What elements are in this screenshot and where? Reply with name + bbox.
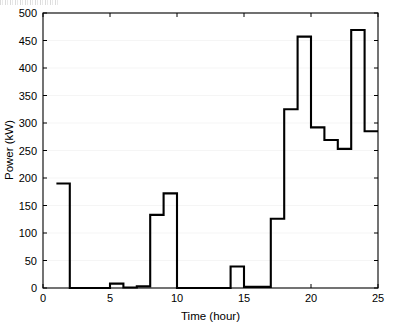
- y-tick-label: 250: [19, 145, 37, 157]
- y-tick-label: 100: [19, 227, 37, 239]
- y-tick-label: 150: [19, 200, 37, 212]
- y-tick-label: 0: [31, 282, 37, 294]
- x-axis-label: Time (hour): [181, 310, 240, 322]
- x-tick-label: 15: [238, 292, 250, 304]
- x-tick-label: 0: [40, 292, 46, 304]
- data-series-group: [56, 30, 378, 288]
- y-axis-label: Power (kW): [3, 120, 15, 180]
- y-tick-label: 300: [19, 117, 37, 129]
- x-tick-label: 20: [305, 292, 317, 304]
- x-tick-label: 25: [372, 292, 384, 304]
- x-tick-label: 10: [171, 292, 183, 304]
- x-tick-label: 5: [107, 292, 113, 304]
- series-power-line: [56, 30, 378, 288]
- y-tick-label: 500: [19, 7, 37, 19]
- y-tick-label: 450: [19, 35, 37, 47]
- power-time-step-chart: 050100150200250300350400450500 051015202…: [0, 0, 393, 327]
- figure-canvas: 050100150200250300350400450500 051015202…: [0, 0, 393, 327]
- y-tick-label: 200: [19, 172, 37, 184]
- y-tick-label: 350: [19, 90, 37, 102]
- grid-lines: [43, 13, 378, 261]
- y-tick-label: 50: [25, 255, 37, 267]
- y-tick-label: 400: [19, 62, 37, 74]
